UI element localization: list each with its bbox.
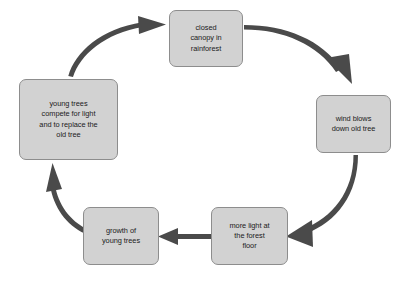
arrow-growth-to-compete xyxy=(46,163,87,234)
node-closed-canopy-label: closed canopy in rainforest xyxy=(187,23,224,54)
arrow-wind-to-light xyxy=(286,155,358,247)
node-growth-young-trees-label: growth of young trees xyxy=(99,226,143,246)
node-more-light[interactable]: more light at the forest floor xyxy=(211,207,288,265)
node-more-light-label: more light at the forest floor xyxy=(226,221,272,252)
node-wind-blows[interactable]: wind blows down old tree xyxy=(316,95,391,153)
node-young-trees-compete-label: young trees compete for light and to rep… xyxy=(36,99,100,140)
arrow-light-to-growth xyxy=(158,228,213,245)
arrow-canopy-to-wind xyxy=(244,25,352,84)
cycle-diagram: closed canopy in rainforest wind blows d… xyxy=(0,0,415,281)
node-wind-blows-label: wind blows down old tree xyxy=(329,114,379,134)
node-young-trees-compete[interactable]: young trees compete for light and to rep… xyxy=(19,79,118,160)
node-closed-canopy[interactable]: closed canopy in rainforest xyxy=(169,10,243,67)
node-growth-young-trees[interactable]: growth of young trees xyxy=(83,207,159,265)
arrow-compete-to-canopy xyxy=(68,16,166,77)
